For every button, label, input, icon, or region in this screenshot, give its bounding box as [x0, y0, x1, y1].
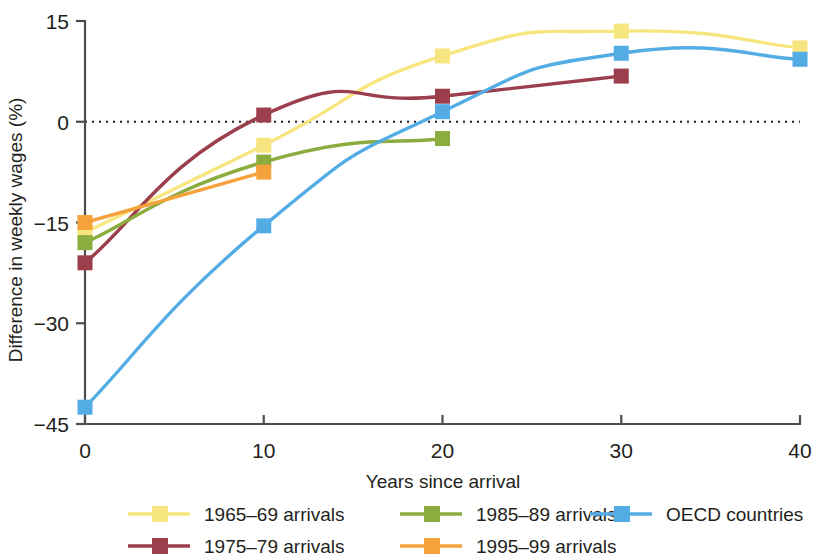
data-point-marker	[256, 138, 271, 153]
legend-item[interactable]: 1975–79 arrivals	[128, 536, 344, 557]
y-tick-label-1: 0	[57, 111, 69, 134]
legend-item[interactable]: OECD countries	[590, 504, 803, 525]
x-tick-label-4: 40	[788, 439, 811, 462]
legend-swatch-marker	[424, 506, 440, 522]
data-point-marker	[78, 235, 93, 250]
y-axis-title: Difference in weekly wages (%)	[5, 98, 26, 363]
y-tick-label-2: −15	[33, 212, 69, 235]
data-point-marker	[614, 46, 629, 61]
x-tick-label-3: 30	[610, 439, 633, 462]
series-2	[78, 69, 629, 271]
y-axis-tick-labels: 150−15−30−45	[33, 10, 69, 436]
legend-label: 1995–99 arrivals	[476, 536, 616, 557]
chart-axes	[76, 21, 800, 424]
legend-item[interactable]: 1965–69 arrivals	[128, 504, 344, 525]
x-axis-tick-labels: 010203040	[79, 439, 812, 462]
y-tick-label-3: −30	[33, 312, 69, 335]
legend-label: OECD countries	[666, 504, 803, 525]
data-point-marker	[256, 108, 271, 123]
y-tick-label-4: −45	[33, 413, 69, 436]
data-point-marker	[78, 400, 93, 415]
y-tick-label-0: 15	[46, 10, 69, 33]
data-point-marker	[435, 104, 450, 119]
data-point-marker	[435, 89, 450, 104]
data-point-marker	[614, 69, 629, 84]
legend-swatch-marker	[424, 538, 440, 554]
axis-spines	[85, 21, 800, 424]
legend-swatch-marker	[152, 538, 168, 554]
legend-item[interactable]: 1995–99 arrivals	[400, 536, 616, 557]
data-series-group	[78, 24, 808, 415]
data-point-marker	[793, 52, 808, 67]
chart-container: 150−15−30−45 010203040 Difference in wee…	[0, 0, 813, 559]
data-point-marker	[256, 218, 271, 233]
data-point-marker	[256, 165, 271, 180]
data-point-marker	[435, 48, 450, 63]
data-point-marker	[78, 215, 93, 230]
data-point-marker	[614, 24, 629, 39]
legend-swatch-marker	[614, 506, 630, 522]
x-tick-label-1: 10	[252, 439, 275, 462]
x-tick-label-2: 20	[431, 439, 454, 462]
legend-item[interactable]: 1985–89 arrivals	[400, 504, 616, 525]
x-axis-title: Years since arrival	[366, 471, 521, 492]
series-line	[85, 76, 621, 263]
line-chart: 150−15−30−45 010203040 Difference in wee…	[0, 0, 813, 559]
chart-legend: 1965–69 arrivals1985–89 arrivalsOECD cou…	[128, 504, 803, 557]
legend-swatch-marker	[152, 506, 168, 522]
data-point-marker	[78, 255, 93, 270]
data-point-marker	[435, 131, 450, 146]
x-tick-label-0: 0	[79, 439, 91, 462]
series-line	[85, 172, 264, 222]
legend-label: 1965–69 arrivals	[204, 504, 344, 525]
legend-label: 1975–79 arrivals	[204, 536, 344, 557]
